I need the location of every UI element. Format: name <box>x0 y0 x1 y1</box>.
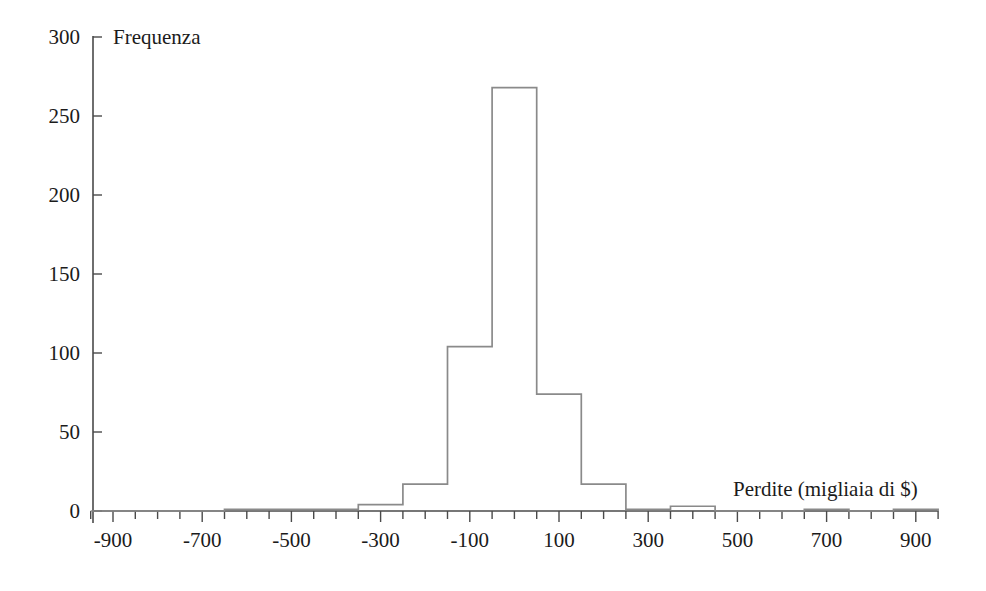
x-tick-label: -900 <box>94 528 133 552</box>
y-axis-title: Frequenza <box>113 25 201 49</box>
y-tick-label: 0 <box>70 499 81 523</box>
chart-background <box>0 0 986 591</box>
x-tick-label: -500 <box>272 528 311 552</box>
y-tick-label: 300 <box>49 25 81 49</box>
x-tick-label: 500 <box>722 528 754 552</box>
y-tick-label: 100 <box>49 341 81 365</box>
x-tick-label: 100 <box>543 528 575 552</box>
y-tick-label: 250 <box>49 104 81 128</box>
x-tick-label: 300 <box>632 528 664 552</box>
histogram-chart: 050100150200250300 -900-700-500-300-1001… <box>0 0 986 591</box>
y-tick-label: 50 <box>59 420 80 444</box>
y-tick-label: 200 <box>49 183 81 207</box>
x-axis-title: Perdite (migliaia di $) <box>733 477 918 501</box>
x-tick-label: -300 <box>361 528 400 552</box>
x-tick-label: 900 <box>900 528 932 552</box>
chart-canvas: 050100150200250300 -900-700-500-300-1001… <box>0 0 986 591</box>
x-tick-label: -700 <box>183 528 222 552</box>
y-tick-label: 150 <box>49 262 81 286</box>
x-tick-label: 700 <box>811 528 843 552</box>
x-tick-label: -100 <box>451 528 490 552</box>
